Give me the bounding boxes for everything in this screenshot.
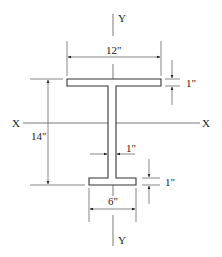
y-axis-top-label: Y [118,13,126,24]
bottom-flange-width-label: 6" [108,196,118,207]
dim-top-flange-thickness [165,60,180,105]
top-flange-width-label: 12" [106,45,122,56]
web-thickness-label: 1" [126,143,136,154]
x-axis-left-label: X [12,118,20,129]
ibeam-diagram: Y Y X X 12" 1" 14" 1" 1" 6" [0,0,222,257]
overall-depth-label: 14" [31,131,47,142]
diagram-drawing [0,0,222,257]
dim-bottom-flange-thickness [142,159,160,204]
bottom-flange-thickness-label: 1" [165,177,175,188]
top-flange-thickness-label: 1" [186,78,196,89]
ibeam-section [67,79,161,185]
x-axis-right-label: X [202,118,210,129]
y-axis-bottom-label: Y [118,235,126,246]
